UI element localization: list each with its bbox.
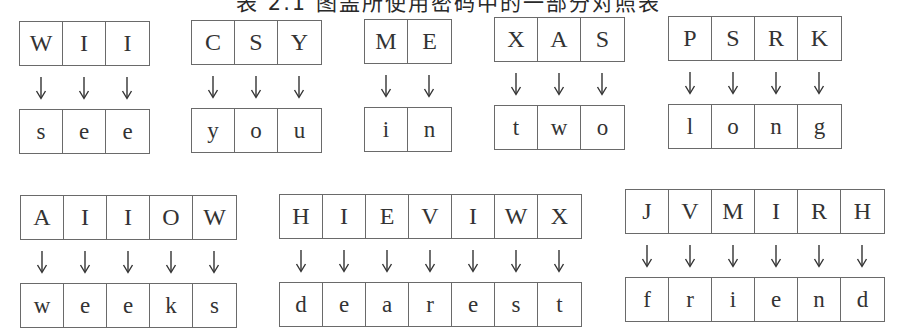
ciphertext-cell: H (841, 190, 884, 233)
plaintext-cell: e (452, 283, 495, 326)
down-arrow-icon (277, 65, 320, 108)
down-arrow-icon (192, 240, 235, 283)
plaintext-cell: t (538, 283, 581, 326)
ciphertext-cell: K (798, 17, 841, 60)
ciphertext-cell: I (323, 195, 366, 238)
down-arrow-icon (580, 62, 623, 105)
ciphertext-cell: O (150, 196, 193, 239)
plaintext-row: dearest (279, 282, 582, 327)
ciphertext-row: ME (364, 19, 452, 64)
ciphertext-cell: Y (278, 21, 321, 64)
plaintext-cell: i (365, 108, 408, 151)
ciphertext-cell: S (235, 21, 278, 64)
ciphertext-cell: W (495, 195, 538, 238)
ciphertext-cell: I (63, 22, 106, 65)
down-arrow-icon (711, 61, 754, 104)
plaintext-cell: e (64, 284, 107, 327)
plaintext-row: in (364, 107, 452, 152)
ciphertext-cell: I (64, 196, 107, 239)
down-arrow-icon (63, 240, 106, 283)
ciphertext-cell: A (538, 18, 581, 61)
ciphertext-cell: S (712, 17, 755, 60)
arrow-row (279, 239, 582, 282)
down-arrow-icon (625, 234, 668, 277)
plaintext-row: two (494, 105, 625, 150)
down-arrow-icon (149, 240, 192, 283)
plaintext-cell: o (581, 106, 624, 149)
plaintext-cell: d (841, 278, 884, 321)
plaintext-cell: k (150, 284, 193, 327)
ciphertext-row: JVMIRH (625, 189, 885, 234)
down-arrow-icon (754, 234, 797, 277)
plaintext-cell: f (626, 278, 669, 321)
ciphertext-cell: H (280, 195, 323, 238)
ciphertext-cell: V (409, 195, 452, 238)
ciphertext-row: CSY (191, 20, 322, 65)
ciphertext-row: XAS (494, 17, 625, 62)
mapping-group-friend: JVMIRHfriend (625, 189, 885, 322)
ciphertext-row: WII (19, 21, 150, 66)
plaintext-row: you (191, 108, 322, 153)
ciphertext-cell: I (106, 22, 149, 65)
plaintext-cell: t (495, 106, 538, 149)
ciphertext-cell: W (193, 196, 236, 239)
arrow-row (19, 66, 150, 109)
ciphertext-row: PSRK (668, 16, 842, 61)
plaintext-cell: o (712, 105, 755, 148)
ciphertext-cell: R (798, 190, 841, 233)
down-arrow-icon (797, 61, 840, 104)
plaintext-cell: s (193, 284, 236, 327)
ciphertext-cell: J (626, 190, 669, 233)
down-arrow-icon (322, 239, 365, 282)
ciphertext-cell: S (581, 18, 624, 61)
arrow-row (364, 64, 452, 107)
ciphertext-row: HIEVIWX (279, 194, 582, 239)
plaintext-cell: s (20, 110, 63, 153)
plaintext-cell: w (538, 106, 581, 149)
plaintext-cell: n (798, 278, 841, 321)
down-arrow-icon (407, 64, 450, 107)
ciphertext-cell: R (755, 17, 798, 60)
mapping-group-weeks: AIIOWweeks (20, 195, 237, 328)
ciphertext-cell: M (712, 190, 755, 233)
down-arrow-icon (279, 239, 322, 282)
plaintext-cell: u (278, 109, 321, 152)
plaintext-row: see (19, 109, 150, 154)
plaintext-cell: e (107, 284, 150, 327)
plaintext-cell: d (280, 283, 323, 326)
ciphertext-cell: M (365, 20, 408, 63)
ciphertext-cell: I (107, 196, 150, 239)
down-arrow-icon (20, 240, 63, 283)
arrow-row (625, 234, 885, 277)
down-arrow-icon (797, 234, 840, 277)
ciphertext-cell: W (20, 22, 63, 65)
arrow-row (20, 240, 237, 283)
down-arrow-icon (494, 239, 537, 282)
ciphertext-cell: I (452, 195, 495, 238)
down-arrow-icon (106, 240, 149, 283)
down-arrow-icon (840, 234, 883, 277)
down-arrow-icon (754, 61, 797, 104)
plaintext-cell: g (798, 105, 841, 148)
plaintext-cell: e (755, 278, 798, 321)
down-arrow-icon (365, 239, 408, 282)
plaintext-cell: y (192, 109, 235, 152)
down-arrow-icon (234, 65, 277, 108)
ciphertext-cell: I (755, 190, 798, 233)
plaintext-row: weeks (20, 283, 237, 328)
mapping-group-dearest: HIEVIWXdearest (279, 194, 582, 327)
arrow-row (668, 61, 842, 104)
plaintext-cell: n (755, 105, 798, 148)
down-arrow-icon (191, 65, 234, 108)
ciphertext-cell: C (192, 21, 235, 64)
down-arrow-icon (668, 61, 711, 104)
down-arrow-icon (105, 66, 148, 109)
down-arrow-icon (711, 234, 754, 277)
mapping-group-see: WIIsee (19, 21, 150, 154)
plaintext-cell: l (669, 105, 712, 148)
plaintext-row: friend (625, 277, 885, 322)
ciphertext-cell: X (495, 18, 538, 61)
mapping-group-long: PSRKlong (668, 16, 842, 149)
down-arrow-icon (408, 239, 451, 282)
plaintext-cell: e (63, 110, 106, 153)
